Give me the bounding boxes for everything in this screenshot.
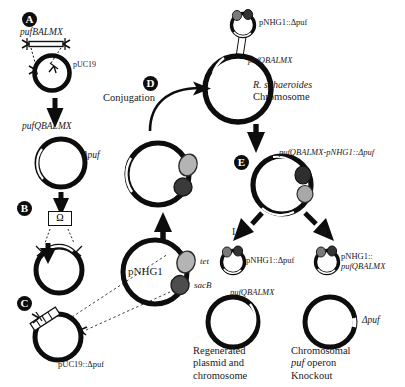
label-puc19-delta-puf: pUC19::Δpuf	[58, 360, 104, 370]
label-branch-ii: II	[320, 226, 327, 237]
label-pnhg1-delta-puf-text: pNHG1::Δpuf	[259, 17, 307, 27]
omega-cassette-box: Ω	[48, 211, 72, 226]
step-b-graphic	[36, 229, 82, 293]
label-outcome-ii-plasmid-line1: pNHG1::	[341, 251, 385, 261]
diagram-vector-layer	[0, 0, 405, 387]
outcome-i-line1: Regenerated	[193, 345, 247, 357]
cointegrate-graphic	[253, 156, 313, 215]
label-host-species: R. sphaeroides	[253, 79, 312, 90]
arrow-pnhg1-to-deltapuf	[154, 212, 172, 240]
outcome-ii-line1: Chromosomal	[291, 345, 351, 357]
outcome-i-line3: chromosome	[193, 370, 247, 382]
outcome-ii-description: Chromosomal puf operon Knockout	[291, 345, 351, 382]
outcome-ii-line2-rest: operon	[304, 357, 336, 368]
label-puc19-delta-puf-text: pUC19::Δpuf	[58, 359, 104, 369]
label-conjugation: Conjugation	[103, 92, 155, 104]
branch-arrow-i	[233, 213, 262, 241]
step-badge-b: B	[17, 201, 32, 216]
label-outcome-ii-chromosome: Δpuf	[362, 315, 380, 326]
step-badge-e: E	[234, 155, 249, 170]
step-badge-c: C	[17, 296, 32, 311]
conjugation-arrow	[150, 82, 211, 132]
label-pnhg1-delta-puf: pNHG1::Δpuf	[259, 18, 307, 28]
outcome-ii-line3: Knockout	[291, 370, 351, 382]
label-outcome-i-plasmid: pNHG1::Δpuf	[246, 256, 294, 266]
label-chromosome-puf-operon: pufQBALMX	[248, 56, 292, 66]
outcome-ii-line2: puf operon	[291, 357, 351, 369]
label-branch-i: I	[232, 226, 235, 237]
label-outcome-i-chromosome: pufQBALMX	[230, 288, 274, 298]
outcome-ii-line2-italic: puf	[291, 357, 304, 368]
label-puc19: pUC19	[73, 61, 96, 70]
delta-puf-plasmid-graphic	[126, 143, 200, 205]
label-tet-marker: tet	[200, 256, 209, 266]
arrow-chromosome-to-cointegrate	[247, 124, 265, 153]
step-badge-a: A	[22, 12, 37, 27]
outcome-i-line2: plasmid and	[193, 357, 247, 369]
label-sacb-marker: sacB	[194, 280, 212, 290]
outcome-i-description: Regenerated plasmid and chromosome	[193, 345, 247, 382]
label-outcome-ii-plasmid-line2: pufQBALMX	[341, 261, 385, 271]
figure-panel: A pufBALMX pUC19 pufQBALMX B Ω C pUC19::…	[0, 0, 405, 387]
step-a-graphic	[22, 38, 70, 91]
label-delta-puf: Δpuf	[82, 150, 100, 161]
label-host-structure: Chromosome	[253, 91, 310, 103]
label-outcome-ii-plasmid: pNHG1:: pufQBALMX	[341, 251, 385, 271]
pufqbalmx-plasmid-graphic	[37, 139, 85, 187]
step-badge-d: D	[143, 76, 158, 91]
label-cointegrate: pufQBALMX-pNHG1::Δpuf	[279, 148, 374, 158]
label-pufqbalmx-plasmid: pufQBALMX	[22, 121, 72, 132]
label-puf-fragment: pufBALMX	[20, 27, 63, 38]
label-pnhg1: pNHG1	[128, 265, 163, 277]
label-outcome-i-plasmid-text: pNHG1::Δpuf	[246, 255, 294, 265]
